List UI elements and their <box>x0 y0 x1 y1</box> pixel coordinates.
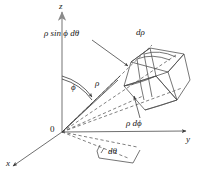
phi-angle-arc <box>62 76 92 100</box>
front-bottom-curve-outer <box>145 100 177 110</box>
ruling-top-1 <box>137 56 170 60</box>
ray-theta-front <box>62 132 128 158</box>
y-axis-label: y <box>186 134 190 144</box>
radius-label: ρ <box>95 78 99 88</box>
leader-arc-theta <box>92 40 128 66</box>
y-axis-line <box>62 131 186 132</box>
ruling-front-2 <box>144 54 152 97</box>
ray-lower-far <box>62 88 182 132</box>
arc-length-phi-label: ρ dϕ <box>126 118 142 128</box>
origin-label: 0 <box>50 124 55 134</box>
top-face <box>131 48 184 72</box>
spherical-volume-element-figure: z y x 0 ρ sin ϕ dθ dρ ρ dϕ ϕ ρ dθ <box>0 0 200 174</box>
axis-lines <box>13 12 186 166</box>
radial-thickness-label: dρ <box>136 27 145 37</box>
leader-arc-phi <box>134 96 140 118</box>
dtheta-tick <box>101 148 104 153</box>
z-axis-label: z <box>59 1 63 11</box>
arc-length-theta-label: ρ sin ϕ dθ <box>44 28 79 38</box>
ray-upper-far <box>62 55 176 132</box>
ray-theta-back <box>62 132 137 147</box>
dtheta-bracket <box>97 145 140 163</box>
polar-angle-label: ϕ <box>71 82 76 92</box>
edge-mid-top <box>156 72 168 76</box>
x-axis-label: x <box>6 158 10 168</box>
x-axis-line <box>13 132 62 166</box>
figure-canvas <box>0 0 200 174</box>
volume-element-wedge <box>124 48 190 110</box>
azimuthal-increment-label: dθ <box>108 146 117 156</box>
